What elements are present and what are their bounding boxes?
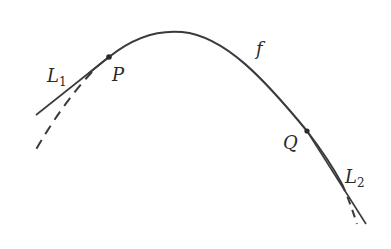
label-l1-subscript: 1 <box>59 75 67 89</box>
diagram-svg: f P Q L 1 L 2 <box>0 0 391 249</box>
label-f: f <box>254 38 266 59</box>
curve-f <box>88 32 342 184</box>
label-l2: L <box>344 166 357 187</box>
tangent-lines-diagram: f P Q L 1 L 2 <box>0 0 391 249</box>
point-q-dot <box>304 128 309 133</box>
label-q: Q <box>283 132 298 153</box>
label-p: P <box>111 64 125 85</box>
dashed-curve-near-q <box>342 184 357 224</box>
label-l1: L <box>46 65 59 86</box>
label-l2-subscript: 2 <box>357 176 365 190</box>
point-p-dot <box>106 54 112 60</box>
